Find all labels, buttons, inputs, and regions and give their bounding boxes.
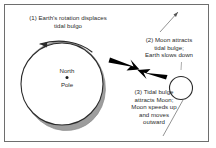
annotation-three: (3) Tidal bulge attracts Moon; Moon spee… xyxy=(112,88,196,126)
leader-line-moon-top xyxy=(181,62,182,70)
annotation-one: (1) Earth's rotation displaces tidal bul… xyxy=(14,14,122,29)
bold-arrow-right xyxy=(109,58,140,71)
leader-line-upper xyxy=(160,12,178,32)
north-label: North xyxy=(47,67,87,74)
bold-arrow-left xyxy=(138,69,168,80)
tidal-interaction-figure: (1) Earth's rotation displaces tidal bul… xyxy=(0,0,216,148)
pole-label: Pole xyxy=(47,81,87,88)
pole-dot xyxy=(66,76,69,79)
annotation-two: (2) Moon attracts tidal bulge; Earth slo… xyxy=(128,36,210,59)
